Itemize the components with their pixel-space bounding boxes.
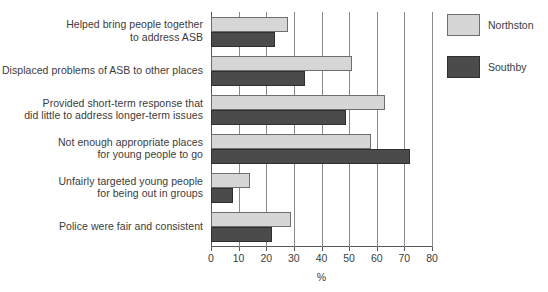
x-tick [322, 247, 323, 251]
x-tick-label: 60 [371, 252, 383, 264]
bar-southby-5 [211, 227, 272, 242]
category-label-3: Not enough appropriate places for young … [58, 136, 203, 161]
bar-southby-0 [211, 32, 275, 47]
x-tick-label: 70 [399, 252, 411, 264]
gridline [377, 12, 378, 247]
x-tick-label: 0 [208, 252, 214, 264]
bar-southby-3 [211, 149, 410, 164]
category-label-0: Helped bring people together to address … [66, 18, 203, 43]
x-tick-label: 20 [260, 252, 272, 264]
x-tick [266, 247, 267, 251]
x-tick [432, 247, 433, 251]
gridline [349, 12, 350, 247]
bar-southby-2 [211, 110, 346, 125]
gridline [294, 12, 295, 247]
bar-northston-2 [211, 95, 385, 110]
gridline [322, 12, 323, 247]
bar-northston-1 [211, 56, 352, 71]
category-label-4: Unfairly targeted young people for being… [58, 175, 203, 200]
x-tick [294, 247, 295, 251]
x-tick [377, 247, 378, 251]
x-tick-label: 50 [343, 252, 355, 264]
bar-southby-4 [211, 188, 233, 203]
bar-chart: Helped bring people together to address … [0, 0, 548, 292]
legend-label-northston: Northston [488, 19, 534, 31]
x-tick-label: 80 [426, 252, 438, 264]
legend-swatch-southby [447, 56, 480, 78]
gridline [404, 12, 405, 247]
x-tick [211, 247, 212, 251]
category-label-1: Displaced problems of ASB to other place… [2, 64, 203, 76]
gridline [432, 12, 433, 247]
bar-northston-5 [211, 212, 291, 227]
x-tick [239, 247, 240, 251]
legend-item-northston[interactable]: Northston [447, 14, 534, 36]
x-tick-label: 10 [233, 252, 245, 264]
bar-northston-4 [211, 173, 250, 188]
x-axis-title: % [211, 271, 432, 283]
legend-label-southby: Southby [488, 61, 527, 73]
bar-northston-0 [211, 17, 288, 32]
legend-item-southby[interactable]: Southby [447, 56, 527, 78]
category-label-2: Provided short-term response that did li… [24, 97, 203, 122]
x-tick [404, 247, 405, 251]
bar-northston-3 [211, 134, 371, 149]
plot-area [211, 12, 432, 247]
bar-southby-1 [211, 71, 305, 86]
category-label-5: Police were fair and consistent [59, 220, 203, 232]
category-axis-labels: Helped bring people together to address … [0, 0, 207, 246]
x-tick [349, 247, 350, 251]
x-tick-label: 30 [288, 252, 300, 264]
legend-swatch-northston [447, 14, 480, 36]
x-tick-label: 40 [316, 252, 328, 264]
